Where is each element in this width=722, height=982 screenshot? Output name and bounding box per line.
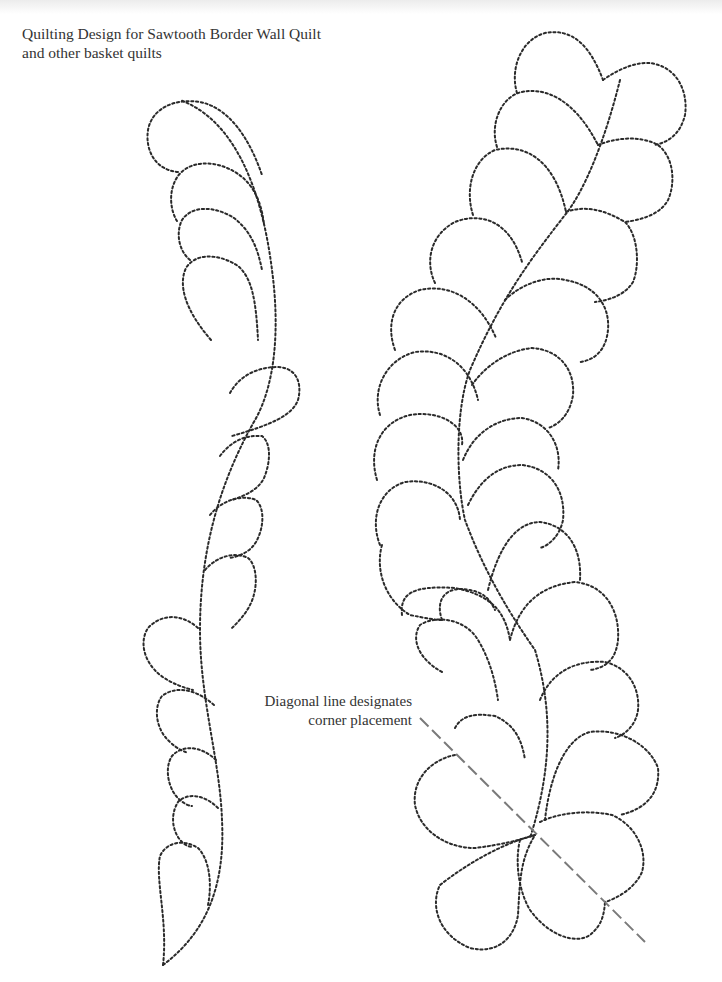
quilting-pattern-drawing [0,0,722,982]
right-plume [545,731,658,820]
left-plume [157,690,214,753]
right-plume [402,587,510,640]
right-plume [380,545,442,620]
right-plume [374,414,462,480]
right-plume [495,91,598,147]
right-feather-spine [458,80,620,838]
diagonal-corner-line [420,718,645,942]
left-plume [183,257,258,341]
right-plume [488,522,580,590]
right-plume [515,32,603,93]
left-plume [230,367,299,436]
right-plume [391,288,496,350]
right-feather-border [374,32,686,949]
right-plume [540,662,638,738]
left-feather-border [144,100,300,965]
right-plume [440,589,495,620]
left-plume [205,555,256,628]
right-plume [436,835,535,949]
right-plume [430,218,522,283]
right-plume [566,209,637,302]
right-plume [505,279,608,362]
right-plume [455,715,525,760]
right-plume [468,465,563,548]
right-plume [378,351,478,415]
left-plume [220,436,269,500]
right-plume [415,755,535,848]
right-plume [463,418,559,470]
left-plume [144,617,198,690]
right-plume [510,582,618,670]
left-plume [168,748,216,806]
right-plume [472,348,573,428]
right-plume [376,481,460,545]
left-plume [179,209,262,270]
right-plume [603,63,686,145]
left-plume [210,498,262,558]
right-plume [416,620,498,700]
left-plume [173,796,218,847]
right-plume [598,139,672,222]
right-plume [470,149,566,215]
